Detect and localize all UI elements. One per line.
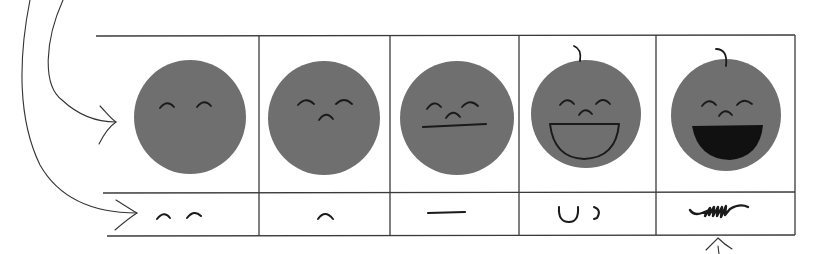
scribble-fill-icon [690, 205, 748, 217]
expression-diagram [0, 0, 833, 254]
face-circle [400, 61, 514, 175]
grid-bottom-line [107, 235, 795, 236]
face-5-laughing [671, 49, 781, 171]
feature-cell-4-smile-and-curl [559, 207, 599, 222]
face-circle [268, 61, 380, 175]
eye-stroke-icon [157, 214, 170, 219]
hair-curl-icon [574, 46, 580, 61]
arrow-up-to-last-feature [706, 238, 732, 254]
nose-stroke-icon [318, 214, 333, 219]
face-4-open-smile [531, 46, 641, 168]
arrow-curve [22, 0, 137, 213]
hair-curl-stroke-icon [594, 207, 599, 219]
face-1-closed-eyes [134, 60, 246, 174]
arrow-head-icon [115, 200, 137, 230]
face-circle [134, 60, 246, 174]
feature-cell-1-eyes [157, 213, 201, 219]
arrow-curve [48, 0, 116, 122]
face-3-straight-mouth [400, 61, 514, 175]
face-circle [531, 60, 641, 168]
eye-stroke-icon [187, 213, 201, 218]
arrow-head-icon [706, 238, 732, 250]
arrow-stem [718, 246, 719, 254]
arrow-to-feature-row [22, 0, 137, 230]
mouth-line-stroke-icon [428, 212, 465, 213]
face-2-with-nose [268, 61, 380, 175]
arrow-head-icon [99, 106, 116, 144]
smile-stroke-icon [559, 207, 578, 222]
feature-cell-5-scribble [690, 205, 748, 217]
arrow-to-face-row [48, 0, 116, 144]
feature-cell-2-nose [318, 214, 333, 219]
feature-cell-3-mouth-line [428, 212, 465, 213]
grid-row-divider [103, 192, 795, 193]
grid-top-line [96, 35, 795, 36]
